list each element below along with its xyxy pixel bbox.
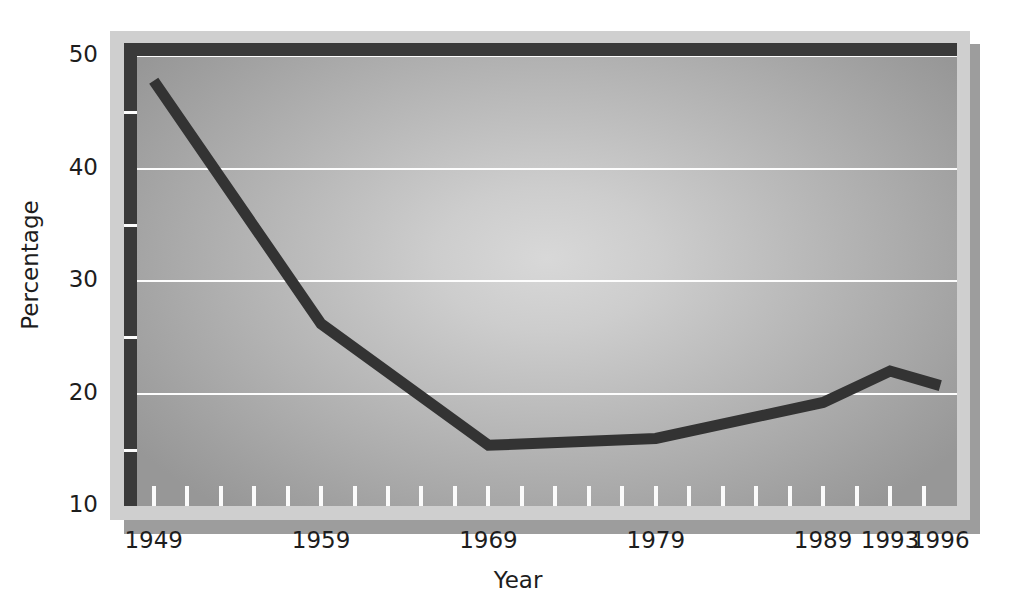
series-line-percentage: [154, 81, 941, 446]
y-tick-label-30: 30: [36, 266, 98, 292]
series-line-layer: [137, 56, 957, 506]
y-tick-label-20: 20: [36, 379, 98, 405]
y-tick-label-50: 50: [36, 41, 98, 67]
y-tick-label-10: 10: [36, 491, 98, 517]
chart-figure: 1020304050 1949195919691979198919931996 …: [0, 0, 1036, 609]
y-minor-tick-45: [124, 111, 137, 114]
x-tick-label-1959: 1959: [292, 527, 351, 553]
x-tick-label-1949: 1949: [124, 527, 183, 553]
x-tick-label-1969: 1969: [459, 527, 518, 553]
y-minor-tick-35: [124, 224, 137, 227]
y-minor-tick-25: [124, 336, 137, 339]
x-axis-title: Year: [0, 567, 1036, 593]
x-tick-label-1996: 1996: [911, 527, 970, 553]
x-tick-label-1979: 1979: [626, 527, 685, 553]
y-tick-label-40: 40: [36, 154, 98, 180]
plot-area: [137, 56, 957, 506]
x-tick-label-1989: 1989: [794, 527, 853, 553]
y-axis-title: Percentage: [17, 175, 43, 355]
y-minor-tick-15: [124, 449, 137, 452]
